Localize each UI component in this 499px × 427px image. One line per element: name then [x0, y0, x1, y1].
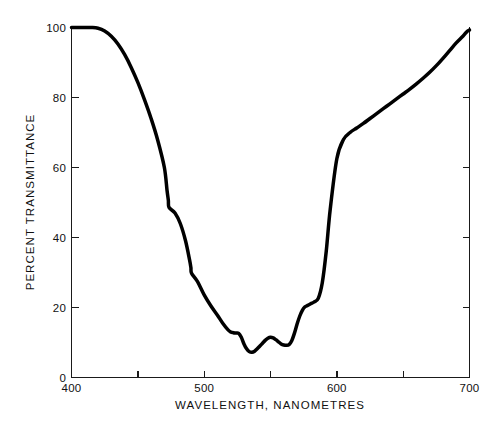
x-tick-label-700: 700 [460, 382, 480, 394]
y-axis-title: PERCENT TRANSMITTANCE [24, 114, 36, 291]
chart-background [0, 0, 499, 427]
y-tick-label-60: 60 [53, 162, 66, 174]
x-axis-title: WAVELENGTH, NANOMETRES [175, 399, 365, 411]
y-tick-label-100: 100 [46, 22, 66, 34]
chart-figure: 0 20 40 60 80 100 400 500 600 700 WAVELE… [0, 0, 499, 427]
y-tick-label-40: 40 [53, 232, 66, 244]
y-tick-label-80: 80 [53, 92, 66, 104]
y-tick-label-20: 20 [53, 302, 66, 314]
transmittance-chart-svg: 0 20 40 60 80 100 400 500 600 700 WAVELE… [0, 0, 499, 427]
x-tick-label-400: 400 [62, 382, 82, 394]
x-tick-label-500: 500 [194, 382, 214, 394]
x-tick-label-600: 600 [327, 382, 347, 394]
